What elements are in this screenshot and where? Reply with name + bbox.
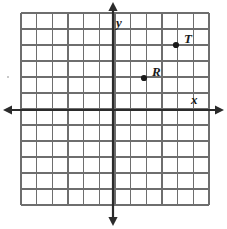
point-label-r: R [152, 65, 161, 78]
point-label-t: T [184, 32, 192, 45]
x-axis-label: x [191, 93, 198, 106]
coordinate-plane-svg [0, 0, 227, 229]
scan-speck-icon [7, 76, 9, 78]
plotted-point-r [141, 75, 147, 81]
y-axis-label: y [116, 16, 122, 29]
plotted-point-t [173, 42, 179, 48]
coordinate-plane-figure: x y R T [0, 0, 227, 229]
